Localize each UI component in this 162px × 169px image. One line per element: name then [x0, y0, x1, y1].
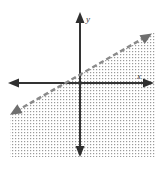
- inequality-graph-figure: x y: [0, 0, 162, 169]
- graph-canvas: x y: [0, 0, 162, 169]
- x-axis-label: x: [136, 71, 141, 81]
- shaded-region: [10, 30, 155, 157]
- shaded-region-fill: [10, 30, 155, 157]
- y-axis-label: y: [85, 14, 90, 24]
- y-axis-up-arrowhead: [76, 12, 85, 23]
- x-axis-left-arrowhead: [8, 79, 19, 88]
